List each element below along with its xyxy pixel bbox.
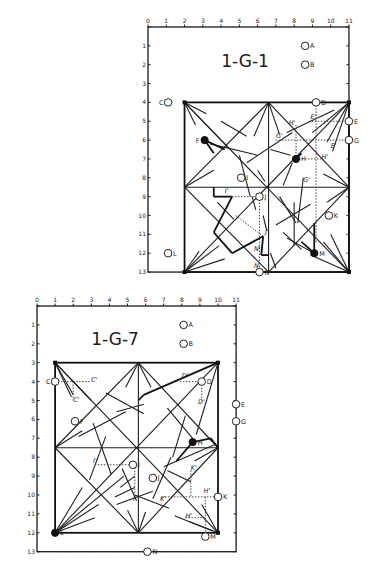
filled-circle-icon: [201, 137, 208, 144]
prime-annotation: D': [182, 372, 189, 380]
row-tick-label: 7: [142, 155, 146, 162]
trajectory-line: [280, 197, 296, 223]
open-circle-icon: [71, 417, 79, 425]
col-tick-label: 2: [71, 296, 75, 303]
point-m: M: [311, 250, 325, 258]
col-tick-label: 0: [35, 296, 39, 303]
col-tick-label: 4: [219, 17, 223, 24]
open-circle-icon: [325, 212, 333, 220]
trajectory-line: [115, 487, 135, 496]
trajectory-line: [270, 150, 290, 156]
col-tick-label: 0: [146, 17, 150, 24]
point-label: K: [334, 212, 339, 220]
open-circle-icon: [232, 417, 240, 425]
col-tick-label: 9: [198, 296, 202, 303]
diagram-canvas: 1-G-1 0123456789101112345678910111213H'E…: [0, 0, 375, 573]
prime-annotation: K': [191, 464, 197, 472]
row-tick-label: 5: [31, 397, 35, 404]
corner-marker: [347, 270, 351, 274]
row-tick-label: 4: [142, 98, 146, 105]
open-circle-icon: [256, 268, 264, 276]
point-i: I: [129, 461, 140, 469]
col-tick-label: 10: [214, 296, 222, 303]
row-tick-label: 1: [142, 42, 146, 49]
point-label: G: [354, 137, 359, 145]
row-tick-label: 3: [31, 359, 35, 366]
point-label: M: [210, 533, 216, 541]
point-f: F: [196, 137, 209, 145]
trajectory-line: [79, 412, 126, 437]
point-label: J: [157, 474, 160, 482]
row-tick-label: 13: [27, 548, 35, 555]
corner-marker: [347, 100, 351, 104]
trajectory-line: [185, 246, 220, 272]
trajectory-line: [175, 516, 213, 531]
trajectory-line: [55, 487, 82, 532]
point-g: G: [232, 417, 246, 425]
col-tick-label: 11: [345, 17, 353, 24]
point-c: C: [46, 378, 59, 386]
point-l: L: [164, 249, 177, 257]
open-circle-icon: [345, 136, 353, 144]
col-tick-label: 6: [256, 17, 260, 24]
prime-annotation: I': [133, 495, 137, 503]
point-b: B: [180, 340, 193, 348]
prime-annotation: E': [331, 142, 337, 150]
point-h: H: [292, 155, 306, 163]
col-tick-label: 5: [126, 296, 130, 303]
prime-annotation: H': [289, 119, 296, 127]
open-circle-icon: [202, 533, 210, 541]
bold-path-line: [214, 232, 232, 253]
col-tick-label: 2: [183, 17, 187, 24]
point-label: D: [321, 99, 326, 107]
filled-circle-icon: [189, 438, 196, 445]
row-tick-label: 2: [31, 340, 35, 347]
corner-marker: [216, 361, 220, 365]
trajectory-line: [185, 251, 200, 272]
col-tick-label: 5: [237, 17, 241, 24]
prime-annotation: H': [322, 153, 329, 161]
trajectory-line: [89, 436, 105, 479]
point-label: I: [138, 461, 140, 469]
point-label: C: [46, 378, 51, 386]
bold-path-line: [138, 395, 143, 401]
open-circle-icon: [345, 117, 353, 125]
point-label: C: [159, 99, 164, 107]
point-label: I: [246, 174, 248, 182]
trajectory-line: [55, 476, 124, 533]
open-circle-icon: [198, 378, 206, 386]
filled-circle-icon: [52, 529, 59, 536]
row-tick-label: 5: [142, 117, 146, 124]
prime-annotation: K': [160, 495, 166, 503]
corner-marker: [53, 361, 57, 365]
point-e: E: [345, 117, 358, 125]
open-circle-icon: [144, 548, 152, 556]
dotted-guide-line: [236, 216, 263, 237]
point-k: K: [214, 493, 228, 501]
col-tick-label: 4: [107, 296, 111, 303]
bold-path-line: [261, 236, 263, 255]
trajectory-line: [194, 448, 218, 461]
trajectory-line: [128, 510, 139, 533]
point-label: G: [241, 418, 246, 426]
diagram-bottom: 1-G-7 0123456789101112345678910111213C'C…: [27, 296, 246, 556]
prime-annotation: G': [276, 132, 283, 140]
point-label: L: [173, 250, 177, 258]
col-tick-label: 10: [327, 17, 335, 24]
row-tick-label: 1: [31, 321, 35, 328]
filled-circle-icon: [311, 250, 318, 257]
row-tick-label: 10: [138, 212, 146, 219]
trajectory-line: [327, 187, 349, 202]
col-tick-label: 11: [232, 296, 240, 303]
point-a: A: [180, 321, 194, 329]
row-tick-label: 6: [142, 136, 146, 143]
point-e: E: [232, 400, 245, 408]
col-tick-label: 3: [89, 296, 93, 303]
point-label: E: [354, 118, 358, 126]
point-label: B: [310, 61, 314, 69]
diagram-top: 1-G-1 0123456789101112345678910111213H'E…: [138, 17, 359, 277]
point-c: C: [159, 99, 172, 107]
diagram-title-top: 1-G-1: [221, 51, 269, 71]
trajectory-line: [167, 470, 191, 481]
point-d: D: [312, 99, 326, 107]
